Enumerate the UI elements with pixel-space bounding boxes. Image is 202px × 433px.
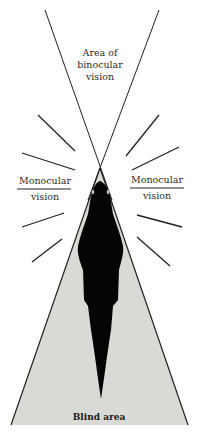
horse-eye-left-icon (92, 190, 95, 194)
monocular-left-ray-2 (22, 153, 75, 170)
monocular-left-ray-1 (38, 115, 75, 151)
binocular-label-line-2: binocular (77, 59, 123, 70)
monocular-right-ray-4 (137, 237, 170, 266)
monocular-left-ray-3 (22, 213, 64, 227)
monocular-right-ray-1 (126, 115, 159, 156)
blind-area-label: Blind area (73, 412, 126, 422)
monocular-right-label-top: Monocular (131, 174, 183, 185)
monocular-left-ray-4 (32, 239, 62, 262)
monocular-right-ray-3 (137, 215, 182, 227)
binocular-label-line-1: Area of (82, 47, 119, 58)
horse-eye-right-icon (107, 190, 110, 194)
monocular-right-ray-2 (132, 147, 179, 170)
monocular-left-label-top: Monocular (19, 175, 71, 186)
vision-field-diagram: Area of binocular vision Monocular visio… (0, 0, 202, 433)
binocular-label-line-3: vision (85, 71, 114, 82)
binocular-boundary-right (88, 10, 159, 200)
binocular-boundary-left (45, 10, 112, 200)
monocular-right-label-bottom: vision (142, 190, 171, 201)
monocular-left-label-bottom: vision (30, 191, 59, 202)
